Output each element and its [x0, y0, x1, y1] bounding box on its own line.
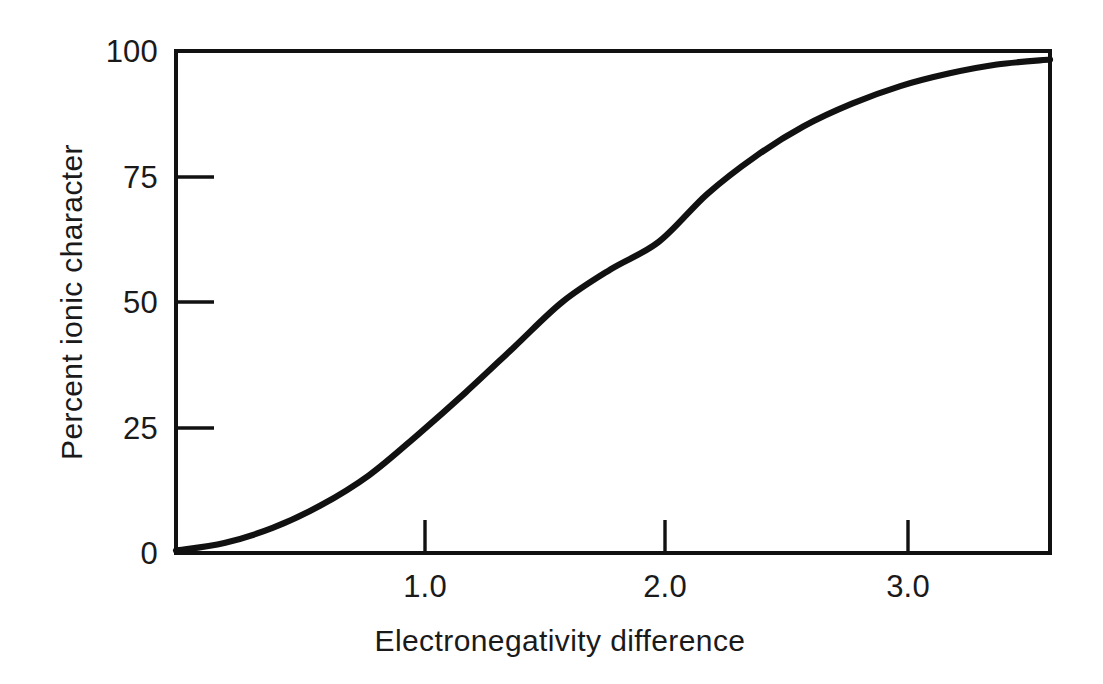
xtick-label-1: 1.0	[403, 569, 447, 604]
xtick-label-2: 2.0	[643, 569, 687, 604]
y-axis-title: Percent ionic character	[55, 144, 88, 460]
axis-frame	[176, 51, 1050, 553]
ytick-label-100: 100	[106, 34, 158, 69]
xtick-label-3: 3.0	[886, 569, 930, 604]
ytick-label-75: 75	[123, 160, 158, 195]
x-axis-title: Electronegativity difference	[375, 624, 746, 657]
plot-area: 100 75 50 25 0 1.0 2.0 3.0 Electronegati…	[0, 0, 1103, 684]
chart-figure: 100 75 50 25 0 1.0 2.0 3.0 Electronegati…	[0, 0, 1103, 684]
ionic-character-curve	[176, 60, 1050, 551]
ytick-label-25: 25	[123, 411, 158, 446]
ytick-label-0: 0	[141, 536, 158, 571]
ytick-label-50: 50	[123, 285, 158, 320]
